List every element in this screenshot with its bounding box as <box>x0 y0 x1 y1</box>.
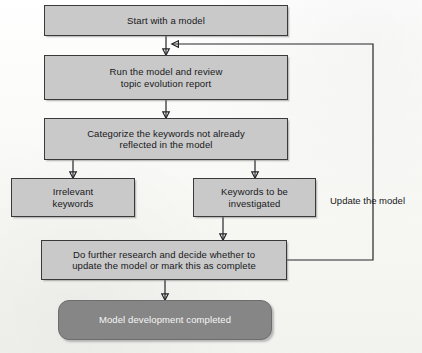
node-keywords-to-be-investigated[interactable]: Keywords to be investigated <box>193 178 316 217</box>
flowchart-canvas: Start with a model Run the model and rev… <box>0 0 422 353</box>
node-start[interactable]: Start with a model <box>44 5 288 36</box>
node-run-model-label: Run the model and review topic evolution… <box>110 66 223 89</box>
node-model-development-completed-label: Model development completed <box>99 314 231 326</box>
node-irrelevant-keywords[interactable]: Irrelevant keywords <box>11 178 135 217</box>
edge-label-update-the-model: Update the model <box>330 195 405 206</box>
node-keywords-to-be-investigated-label: Keywords to be investigated <box>221 186 288 209</box>
node-start-label: Start with a model <box>127 15 205 27</box>
node-categorize-keywords[interactable]: Categorize the keywords not already refl… <box>44 118 288 160</box>
node-run-model[interactable]: Run the model and review topic evolution… <box>44 55 288 100</box>
node-do-further-research-label: Do further research and decide whether t… <box>72 249 256 272</box>
node-do-further-research[interactable]: Do further research and decide whether t… <box>41 240 287 280</box>
node-irrelevant-keywords-label: Irrelevant keywords <box>53 186 94 209</box>
node-categorize-keywords-label: Categorize the keywords not already refl… <box>87 128 245 151</box>
node-model-development-completed[interactable]: Model development completed <box>58 300 272 340</box>
